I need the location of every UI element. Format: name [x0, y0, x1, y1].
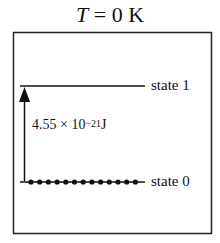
particle-dot	[107, 179, 112, 184]
diagram-frame	[14, 33, 212, 234]
particle-dot	[115, 179, 120, 184]
particle-dot	[81, 179, 86, 184]
particle-dot	[46, 179, 51, 184]
particle-dot	[124, 179, 129, 184]
state-0-label: state 0	[151, 173, 190, 189]
particle-dot	[28, 179, 33, 184]
energy-unit: J	[101, 117, 106, 132]
energy-exponent: −21	[85, 118, 101, 129]
particle-dot	[98, 179, 103, 184]
particle-dot	[55, 179, 60, 184]
transition-arrow-icon	[19, 87, 30, 181]
particle-dot	[89, 179, 94, 184]
particle-dot	[63, 179, 68, 184]
state-1-label: state 1	[151, 77, 190, 93]
particle-dot	[133, 179, 138, 184]
particle-dot	[72, 179, 77, 184]
energy-mantissa: 4.55 × 10	[32, 117, 85, 132]
particle-dot	[37, 179, 42, 184]
transition-energy-label: 4.55 × 10−21J	[32, 117, 107, 133]
